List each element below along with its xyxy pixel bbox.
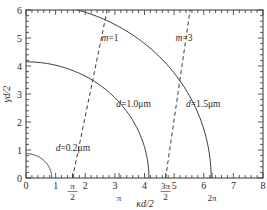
curve-label: d=1.5μm <box>186 99 221 109</box>
x-tick-label: 2 <box>83 180 88 191</box>
plot-curves <box>26 3 211 178</box>
x-tick-label: 0 <box>24 180 29 191</box>
chart: 0123456780123456π2π3π22π d=0.2μmd=1.0μmd… <box>0 0 267 210</box>
x-special-tick-label: 2 <box>163 192 168 202</box>
x-special-tick-label: 2 <box>70 192 75 202</box>
y-tick-label: 3 <box>17 89 22 100</box>
x-special-tick-label: 2π <box>208 193 218 203</box>
y-tick-label: 4 <box>17 61 22 72</box>
curve-d-1-5-m <box>26 3 211 178</box>
x-tick-label: 5 <box>172 180 177 191</box>
x-tick-label: 6 <box>201 180 206 191</box>
y-tick-label: 2 <box>17 117 22 128</box>
x-special-tick-label: 3π <box>161 181 171 191</box>
x-tick-label: 1 <box>53 180 58 191</box>
curve-d-0-2-m <box>26 154 52 178</box>
y-tick-label: 1 <box>17 145 22 156</box>
x-tick-label: 4 <box>142 180 147 191</box>
x-special-tick-label: π <box>117 193 122 203</box>
x-special-tick-label: π <box>70 181 75 191</box>
y-tick-label: 6 <box>17 5 22 16</box>
curve-label: m=3 <box>176 33 193 43</box>
curve-label: d=1.0μm <box>116 99 151 109</box>
curve-labels: d=0.2μmd=1.0μmd=1.5μmm=1m=3 <box>56 33 221 154</box>
y-tick-label: 5 <box>17 33 22 44</box>
y-tick-label: 0 <box>17 173 22 184</box>
curve-label: m=1 <box>102 33 119 43</box>
x-tick-label: 8 <box>261 180 266 191</box>
x-axis-label: κd/2 <box>136 198 154 209</box>
x-tick-label: 7 <box>231 180 236 191</box>
curve-label: d=0.2μm <box>56 143 91 153</box>
x-tick-label: 3 <box>112 180 117 191</box>
y-axis-label: γd/2 <box>1 86 12 103</box>
